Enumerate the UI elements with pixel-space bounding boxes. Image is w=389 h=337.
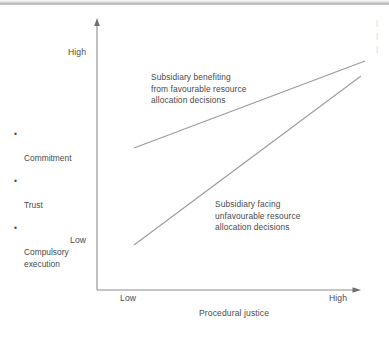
x-axis-title: Procedural justice [199,308,269,320]
list-item: • Compulsory execution [22,223,93,282]
list-item: • Trust [22,176,93,223]
chart-figure: High Low Low High Procedural justice Sub… [0,0,389,337]
y-axis-tick-high: High [68,47,86,59]
moderator-factor-list: • Commitment • Trust • Compulsory execut… [13,129,93,282]
x-axis-tick-low: Low [120,293,136,305]
bullet-icon: • [14,176,17,188]
bullet-icon: • [14,129,17,141]
page-margin-text: | | | [376,16,389,55]
annotation-favourable: Subsidiary benefiting from favourable re… [151,72,247,107]
list-item: • Commitment [22,129,93,176]
bullet-icon: • [14,223,17,235]
factor-label: Commitment [22,153,93,165]
annotation-unfavourable: Subsidiary facing unfavourable resource … [215,199,300,234]
figure-page: High Low Low High Procedural justice Sub… [0,0,389,337]
x-axis-tick-high: High [329,293,347,305]
factor-list-items: • Commitment • Trust • Compulsory execut… [13,129,93,282]
x-axis-arrowhead [353,287,362,293]
factor-label: Compulsory execution [22,247,93,271]
factor-label: Trust [22,200,93,212]
y-axis-arrowhead [94,18,100,26]
